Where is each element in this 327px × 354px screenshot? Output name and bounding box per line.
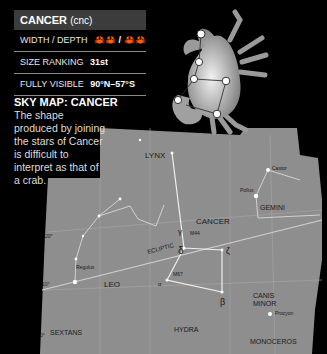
info-value: 🦀🦀 / 🦀🦀 bbox=[94, 35, 146, 45]
sky-map-heading: SKY MAP: CANCER bbox=[14, 96, 118, 108]
label-procyon: Procyon bbox=[275, 310, 294, 316]
info-label: WIDTH / DEPTH bbox=[20, 35, 88, 45]
crab-illustration bbox=[172, 12, 266, 132]
label-m44: M44 bbox=[190, 230, 200, 236]
label-leo: LEO bbox=[104, 280, 120, 289]
info-label: SIZE RANKING bbox=[20, 57, 84, 67]
label-zeta: ζ bbox=[226, 246, 230, 256]
label-sextans: SEXTANS bbox=[50, 329, 82, 336]
label-beta: β bbox=[220, 297, 225, 307]
info-row-size-ranking: SIZE RANKING 31st bbox=[14, 52, 146, 74]
label-castor: Castor bbox=[272, 165, 287, 171]
label-canis-minor-2: MINOR bbox=[253, 300, 276, 307]
info-value: 31st bbox=[90, 57, 108, 67]
sky-map-description: The shape produced by joining the stars … bbox=[14, 109, 106, 187]
label-monoceros: MONOCEROS bbox=[250, 338, 297, 345]
label-canis-minor: CANIS bbox=[253, 292, 275, 299]
label-alpha: α bbox=[158, 281, 162, 287]
label-regulus: Regulus bbox=[76, 264, 95, 270]
label-pollux: Pollux bbox=[240, 187, 254, 193]
label-m67: M67 bbox=[173, 271, 183, 277]
constellation-abbreviation: (cnc) bbox=[70, 15, 92, 26]
label-10deg: 10° bbox=[42, 281, 50, 287]
label-20deg: 20° bbox=[45, 233, 53, 239]
info-title: CANCER (cnc) bbox=[14, 10, 146, 30]
label-gamma: γ bbox=[178, 227, 182, 236]
label-lynx: LYNX bbox=[145, 151, 166, 160]
info-row-width-depth: WIDTH / DEPTH 🦀🦀 / 🦀🦀 bbox=[14, 30, 146, 52]
info-label: FULLY VISIBLE bbox=[20, 79, 84, 89]
info-row-fully-visible: FULLY VISIBLE 90°N–57°S bbox=[14, 74, 146, 96]
label-hydra: HYDRA bbox=[174, 326, 199, 333]
label-delta: δ bbox=[178, 245, 184, 256]
info-value: 90°N–57°S bbox=[90, 79, 135, 89]
constellation-name: CANCER bbox=[20, 14, 67, 26]
label-cancer: CANCER bbox=[196, 217, 230, 226]
label-0deg: 0° bbox=[40, 332, 45, 338]
info-box: CANCER (cnc) WIDTH / DEPTH 🦀🦀 / 🦀🦀 SIZE … bbox=[14, 10, 146, 96]
label-gemini: GEMINI bbox=[260, 204, 285, 211]
